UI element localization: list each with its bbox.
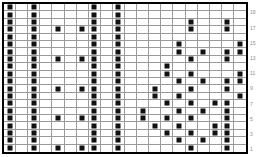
grid-cell-empty[interactable]	[198, 63, 210, 70]
grid-cell-empty[interactable]	[222, 41, 234, 48]
grid-cell-filled[interactable]	[113, 19, 125, 26]
grid-cell-empty[interactable]	[173, 71, 185, 78]
grid-cell-empty[interactable]	[101, 115, 113, 122]
grid-cell-filled[interactable]	[173, 108, 185, 115]
grid-cell-empty[interactable]	[173, 34, 185, 41]
grid-cell-empty[interactable]	[77, 41, 89, 48]
grid-cell-empty[interactable]	[125, 137, 137, 144]
grid-cell-empty[interactable]	[137, 19, 149, 26]
grid-cell-empty[interactable]	[137, 4, 149, 11]
grid-cell-filled[interactable]	[186, 85, 198, 92]
grid-cell-empty[interactable]	[210, 115, 222, 122]
pattern-grid[interactable]	[4, 4, 246, 152]
grid-cell-empty[interactable]	[149, 108, 161, 115]
grid-cell-empty[interactable]	[52, 63, 64, 70]
grid-cell-filled[interactable]	[4, 85, 16, 92]
grid-cell-filled[interactable]	[28, 11, 40, 18]
grid-cell-filled[interactable]	[113, 108, 125, 115]
grid-cell-empty[interactable]	[198, 122, 210, 129]
grid-cell-filled[interactable]	[113, 145, 125, 152]
grid-cell-filled[interactable]	[173, 78, 185, 85]
grid-cell-empty[interactable]	[16, 78, 28, 85]
grid-cell-empty[interactable]	[65, 145, 77, 152]
grid-cell-filled[interactable]	[89, 108, 101, 115]
grid-cell-empty[interactable]	[137, 48, 149, 55]
grid-cell-empty[interactable]	[137, 71, 149, 78]
grid-cell-empty[interactable]	[125, 56, 137, 63]
grid-cell-empty[interactable]	[222, 4, 234, 11]
grid-cell-filled[interactable]	[28, 41, 40, 48]
grid-cell-empty[interactable]	[40, 100, 52, 107]
grid-cell-filled[interactable]	[4, 100, 16, 107]
grid-cell-filled[interactable]	[113, 48, 125, 55]
grid-cell-empty[interactable]	[234, 145, 246, 152]
grid-cell-filled[interactable]	[77, 26, 89, 33]
grid-cell-empty[interactable]	[210, 56, 222, 63]
grid-cell-empty[interactable]	[198, 115, 210, 122]
grid-cell-filled[interactable]	[89, 115, 101, 122]
grid-cell-filled[interactable]	[113, 34, 125, 41]
grid-cell-empty[interactable]	[149, 19, 161, 26]
grid-cell-empty[interactable]	[16, 71, 28, 78]
grid-cell-empty[interactable]	[186, 137, 198, 144]
grid-cell-filled[interactable]	[113, 4, 125, 11]
grid-cell-empty[interactable]	[65, 19, 77, 26]
grid-cell-empty[interactable]	[101, 108, 113, 115]
grid-cell-empty[interactable]	[77, 108, 89, 115]
grid-cell-empty[interactable]	[149, 115, 161, 122]
grid-cell-empty[interactable]	[77, 34, 89, 41]
grid-cell-empty[interactable]	[234, 115, 246, 122]
grid-cell-empty[interactable]	[40, 137, 52, 144]
grid-cell-empty[interactable]	[52, 93, 64, 100]
grid-cell-empty[interactable]	[125, 11, 137, 18]
grid-cell-filled[interactable]	[89, 26, 101, 33]
grid-cell-empty[interactable]	[101, 122, 113, 129]
grid-cell-empty[interactable]	[198, 34, 210, 41]
grid-cell-empty[interactable]	[52, 4, 64, 11]
grid-cell-filled[interactable]	[89, 130, 101, 137]
grid-cell-empty[interactable]	[125, 19, 137, 26]
grid-cell-empty[interactable]	[137, 63, 149, 70]
grid-cell-empty[interactable]	[40, 93, 52, 100]
grid-cell-filled[interactable]	[77, 85, 89, 92]
grid-cell-filled[interactable]	[186, 19, 198, 26]
grid-cell-empty[interactable]	[65, 48, 77, 55]
grid-cell-empty[interactable]	[16, 145, 28, 152]
grid-cell-filled[interactable]	[28, 48, 40, 55]
grid-cell-empty[interactable]	[65, 93, 77, 100]
grid-cell-empty[interactable]	[186, 48, 198, 55]
grid-cell-filled[interactable]	[173, 93, 185, 100]
grid-cell-empty[interactable]	[173, 63, 185, 70]
grid-cell-empty[interactable]	[125, 122, 137, 129]
grid-cell-empty[interactable]	[149, 11, 161, 18]
grid-cell-filled[interactable]	[186, 26, 198, 33]
grid-cell-filled[interactable]	[186, 100, 198, 107]
grid-cell-filled[interactable]	[222, 100, 234, 107]
grid-cell-filled[interactable]	[222, 19, 234, 26]
grid-cell-empty[interactable]	[186, 41, 198, 48]
grid-cell-empty[interactable]	[137, 93, 149, 100]
grid-cell-empty[interactable]	[101, 63, 113, 70]
grid-cell-empty[interactable]	[77, 11, 89, 18]
grid-cell-empty[interactable]	[198, 26, 210, 33]
grid-cell-empty[interactable]	[16, 56, 28, 63]
grid-cell-empty[interactable]	[210, 78, 222, 85]
grid-cell-empty[interactable]	[101, 19, 113, 26]
grid-cell-empty[interactable]	[173, 145, 185, 152]
grid-cell-empty[interactable]	[149, 34, 161, 41]
grid-cell-empty[interactable]	[52, 71, 64, 78]
grid-cell-empty[interactable]	[161, 145, 173, 152]
grid-cell-empty[interactable]	[40, 26, 52, 33]
grid-cell-filled[interactable]	[89, 11, 101, 18]
grid-cell-filled[interactable]	[198, 48, 210, 55]
grid-cell-filled[interactable]	[186, 130, 198, 137]
grid-cell-empty[interactable]	[65, 63, 77, 70]
grid-cell-filled[interactable]	[161, 100, 173, 107]
grid-cell-empty[interactable]	[137, 34, 149, 41]
grid-cell-filled[interactable]	[89, 93, 101, 100]
grid-cell-filled[interactable]	[4, 19, 16, 26]
grid-cell-empty[interactable]	[40, 122, 52, 129]
grid-cell-filled[interactable]	[4, 130, 16, 137]
grid-cell-empty[interactable]	[16, 34, 28, 41]
grid-cell-empty[interactable]	[65, 108, 77, 115]
